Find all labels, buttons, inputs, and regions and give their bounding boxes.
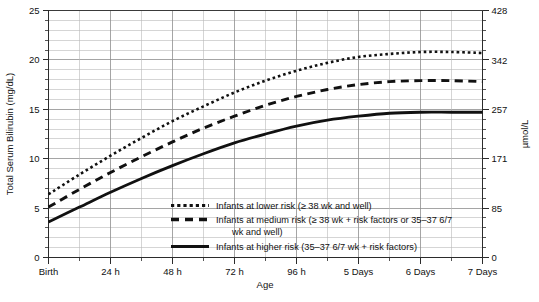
y-axis-right-title: µmol/L (519, 120, 530, 149)
chart-background (0, 0, 539, 302)
y-axis-left-tick-label: 20 (29, 54, 40, 65)
x-axis-title: Age (257, 279, 274, 290)
legend-label-lower-risk: Infants at lower risk (≥ 38 wk and well) (216, 201, 372, 211)
bilirubin-nomogram-chart: 0510152025 085171257342428 Birth24 h48 h… (0, 0, 539, 302)
x-axis-tick-label: 7 Days (468, 266, 498, 277)
x-axis-tick-label: 24 h (101, 266, 120, 277)
y-axis-left-tick-label: 5 (34, 203, 39, 214)
x-axis-tick-label: 6 Days (406, 266, 436, 277)
y-axis-left-tick-label: 25 (29, 5, 40, 16)
x-axis-tick-label: 96 h (287, 266, 306, 277)
y-axis-right-tick-label: 342 (492, 55, 508, 66)
y-axis-right-tick-label: 428 (492, 5, 508, 16)
y-axis-right-tick-label: 0 (492, 252, 497, 263)
x-axis-tick-label: Birth (39, 266, 59, 277)
y-axis-left-tick-label: 10 (29, 153, 40, 164)
y-axis-right-tick-label: 171 (492, 153, 508, 164)
x-axis-tick-label: 72 h (225, 266, 244, 277)
chart-canvas: 0510152025 085171257342428 Birth24 h48 h… (0, 0, 539, 302)
y-axis-left-tick-label: 0 (34, 252, 39, 263)
x-axis-tick-label: 48 h (163, 266, 182, 277)
x-axis-tick-label: 5 Days (344, 266, 374, 277)
legend-label-medium-risk-line2: wk and well) (231, 227, 283, 237)
y-axis-left-title: Total Serum Bilirubin (mg/dL) (4, 73, 15, 196)
legend-label-higher-risk: Infants at higher risk (35–37 6/7 wk + r… (216, 242, 417, 252)
y-axis-left-tick-label: 15 (29, 104, 40, 115)
y-axis-right-tick-label: 85 (492, 203, 503, 214)
y-axis-right-tick-label: 257 (492, 104, 508, 115)
legend-label-medium-risk: Infants at medium risk (≥ 38 wk + risk f… (216, 215, 452, 225)
